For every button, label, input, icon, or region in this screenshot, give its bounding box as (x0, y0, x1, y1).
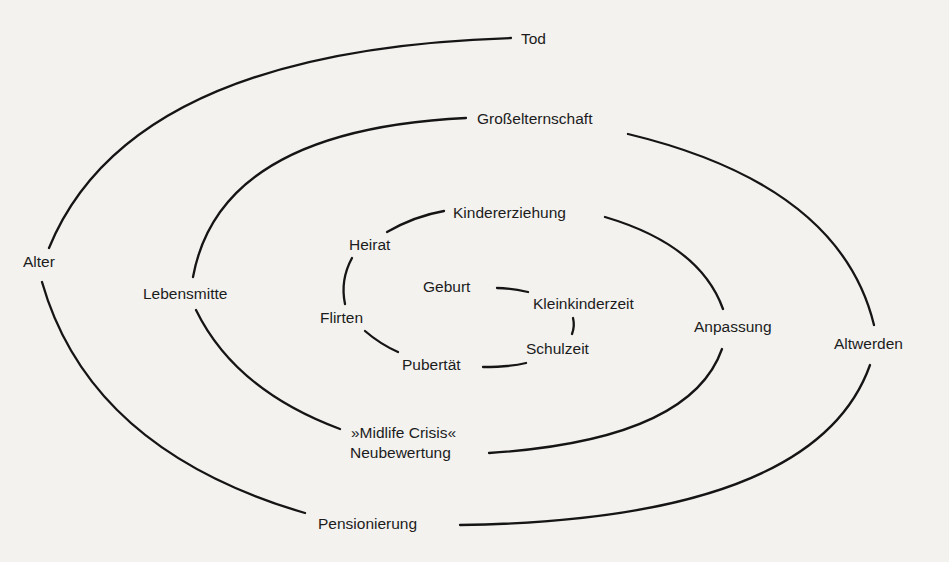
segment-flirten-heirat (344, 258, 352, 304)
spiral-curves (0, 0, 949, 562)
segment-grosselternschaft-altwerden (628, 134, 874, 325)
segment-alter-tod (49, 38, 511, 248)
label-schulzeit: Schulzeit (526, 340, 589, 358)
label-flirten: Flirten (320, 309, 363, 327)
segment-schulzeit-pubertaet (483, 363, 526, 367)
label-alter: Alter (23, 253, 55, 271)
segment-heirat-kindererziehung (387, 211, 444, 232)
label-anpassung: Anpassung (694, 318, 772, 336)
label-pubertaet: Pubertät (402, 356, 461, 374)
life-cycle-spiral-diagram: Geburt Kleinkinderzeit Schulzeit Pubertä… (0, 0, 949, 562)
segment-kleinkinderzeit-schulzeit (572, 318, 574, 334)
segment-midlife-lebensmitte (196, 310, 340, 429)
segment-lebensmitte-grosselternschaft (193, 118, 466, 277)
segment-altwerden-pensionierung (460, 365, 870, 525)
label-heirat: Heirat (349, 236, 390, 254)
label-neubewertung: Neubewertung (350, 444, 451, 462)
label-tod: Tod (521, 30, 546, 48)
label-lebensmitte: Lebensmitte (143, 285, 227, 303)
segment-pensionierung-alter (42, 282, 305, 513)
label-geburt: Geburt (423, 278, 470, 296)
label-kindererziehung: Kindererziehung (453, 204, 566, 222)
label-pensionierung: Pensionierung (318, 515, 417, 533)
label-kleinkinderzeit: Kleinkinderzeit (533, 295, 634, 313)
label-grosselternschaft: Großelternschaft (477, 110, 592, 128)
label-midlife-crisis: »Midlife Crisis« (351, 424, 456, 442)
label-altwerden: Altwerden (834, 335, 903, 353)
segment-pubertaet-flirten (365, 331, 398, 352)
segment-geburt-kleinkinderzeit (497, 288, 528, 292)
